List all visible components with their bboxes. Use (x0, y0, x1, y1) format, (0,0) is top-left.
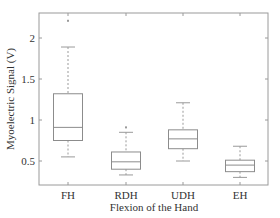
iqr-box (54, 94, 83, 141)
outlier-marker (125, 126, 127, 128)
iqr-box (226, 160, 255, 171)
x-axis-ticks: FHRDHUDHEH (61, 13, 247, 201)
y-tick-label: 0.5 (21, 155, 35, 167)
x-tick-label: FH (61, 189, 75, 201)
y-tick-label: 1.5 (21, 73, 35, 85)
y-axis-label: Myoelectric Signal (V) (4, 48, 17, 150)
x-axis-label: Flexion of the Hand (110, 201, 199, 213)
outlier-marker (67, 20, 69, 22)
x-tick-label: RDH (114, 189, 137, 201)
x-tick-label: EH (233, 189, 248, 201)
box-fh (54, 20, 83, 157)
box-udh (169, 103, 198, 161)
box-rdh (112, 126, 141, 175)
iqr-box (112, 152, 141, 169)
x-tick-label: UDH (171, 189, 195, 201)
box-plot-chart: 0.511.52 FHRDHUDHEH Myoelectric Signal (… (0, 0, 280, 218)
box-eh (226, 146, 255, 177)
y-tick-label: 2 (30, 32, 36, 44)
boxes-group (54, 20, 255, 178)
y-tick-label: 1 (30, 114, 36, 126)
